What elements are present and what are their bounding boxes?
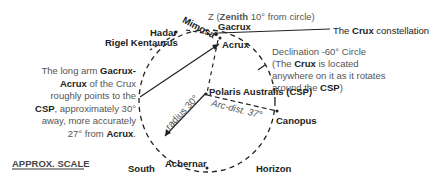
star-achernar: Achernar [165,158,207,169]
star-acrux: Acrux [222,39,249,50]
long-arm-line5: away, more accurately [10,115,136,128]
star-canopus: Canopus [276,115,317,126]
long-arm-line2: Acrux of the Crux [10,78,136,91]
long-arm-note: The long arm Gacrux- Acrux of the Crux r… [10,65,136,140]
crux-constellation-label: The Crux constellation [333,25,429,36]
star-gacrux: Gacrux [218,21,251,32]
horizon-label: Horizon [256,163,291,174]
declination-line3: anywhere on it as it rotates [272,70,386,82]
long-arm-line1: The long arm Gacrux- [10,65,136,78]
long-arm-line4: CSP, approximately 30° [10,103,136,116]
scale-label: APPROX. SCALE [12,158,90,169]
declination-line1: Declination -60° Circle [272,46,386,58]
long-arm-line3: roughly points to the [10,90,136,103]
star-rigel-kentaurus: Rigel Kentaurus [105,37,178,48]
long-arm-line6: 27° from Acrux. [10,128,136,141]
declination-circle [139,30,275,172]
long-arm-line [140,44,219,97]
star-polaris-australis: Polaris Australis (CSP) [209,86,312,97]
declination-line2: (The Crux is located [272,58,386,70]
south-label: South [128,163,155,174]
